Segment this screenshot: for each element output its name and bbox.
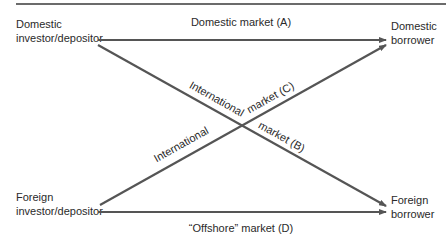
edge-a-label: Domestic market (A) [191,16,291,28]
market-flow-diagram: Domestic market (A) “Offshore” market (D… [0,0,447,243]
edge-d-label: “Offshore” market (D) [189,222,293,234]
edge-c-label-part1: International [152,124,211,164]
